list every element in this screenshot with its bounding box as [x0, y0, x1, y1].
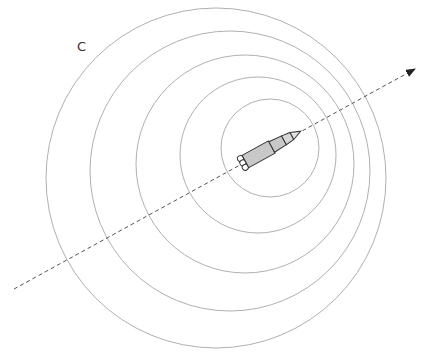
- trajectory-arrow: [14, 69, 415, 289]
- figure-label: C: [77, 39, 86, 54]
- wavefronts: [46, 8, 386, 348]
- doppler-diagram: C: [0, 0, 434, 363]
- rocket-icon: [236, 124, 304, 171]
